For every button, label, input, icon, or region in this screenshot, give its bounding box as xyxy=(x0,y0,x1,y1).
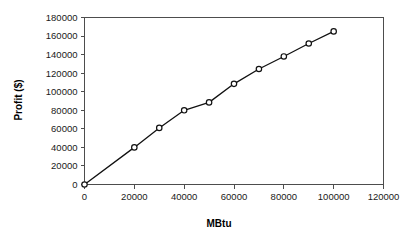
data-point-marker xyxy=(82,182,87,187)
y-tick-label: 100000 xyxy=(46,86,78,97)
y-tick-label: 180000 xyxy=(46,12,78,23)
y-tick-label: 60000 xyxy=(51,123,77,134)
data-point-marker xyxy=(281,54,286,59)
x-tick-label: 80000 xyxy=(271,191,297,202)
data-point-marker xyxy=(306,41,311,46)
profit-vs-mbtu-line-chart: 020000400006000080000100000120000 020000… xyxy=(0,0,418,237)
y-tick-label: 0 xyxy=(72,179,77,190)
y-tick-label: 120000 xyxy=(46,68,78,79)
y-tick-label: 20000 xyxy=(51,160,77,171)
data-point-marker xyxy=(231,81,236,86)
x-tick-label: 0 xyxy=(82,191,87,202)
data-point-marker xyxy=(206,100,211,105)
x-tick-label: 20000 xyxy=(121,191,147,202)
x-axis-title: MBtu xyxy=(207,218,232,229)
data-point-marker xyxy=(157,125,162,130)
y-tick-label: 40000 xyxy=(51,142,77,153)
y-axis-title: Profit ($) xyxy=(13,79,24,120)
data-point-marker xyxy=(331,29,336,34)
data-point-marker xyxy=(181,108,186,113)
x-tick-label: 100000 xyxy=(318,191,350,202)
data-point-marker xyxy=(132,145,137,150)
y-tick-label: 160000 xyxy=(46,30,78,41)
chart-container: 020000400006000080000100000120000 020000… xyxy=(0,0,418,237)
y-tick-label: 80000 xyxy=(51,105,77,116)
x-tick-label: 60000 xyxy=(221,191,247,202)
y-tick-label: 140000 xyxy=(46,49,78,60)
data-point-marker xyxy=(256,66,261,71)
x-tick-label: 120000 xyxy=(368,191,400,202)
x-tick-label: 40000 xyxy=(171,191,197,202)
